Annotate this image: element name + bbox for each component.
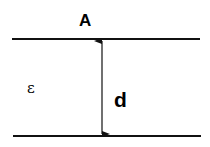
separation-label: d	[114, 88, 127, 111]
permittivity-label: ε	[27, 79, 35, 97]
area-label: A	[79, 11, 91, 30]
capacitor-diagram: A ε d	[0, 0, 210, 147]
